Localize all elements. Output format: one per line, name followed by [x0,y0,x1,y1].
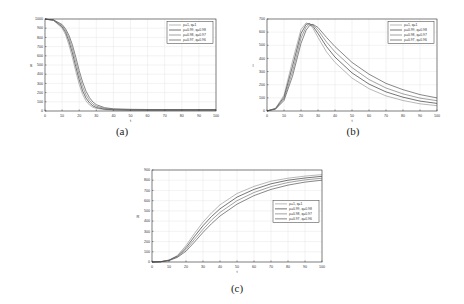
chart-panel-a: 0102030405060708090100010020030040050060… [0,0,232,145]
x-tick-label: 80 [180,114,184,118]
chart-panel-b: 0102030405060708090100010020030040050060… [232,0,464,145]
y-tick-label: 300 [37,82,43,86]
caption-b: (b) [333,125,373,137]
y-tick-label: 700 [144,189,150,193]
chart-c-plot: 0102030405060708090100010020030040050060… [116,152,348,277]
x-tick-label: 100 [434,114,440,118]
x-tick-label: 30 [316,114,320,118]
x-tick-label: 100 [319,265,325,269]
legend-entry: ρ=0.99, q=0.98 [404,28,427,32]
legend-entry: ρ=0.97, q=0.96 [289,217,312,221]
x-tick-label: 20 [184,265,188,269]
x-tick-label: 90 [418,114,422,118]
y-tick-label: 400 [37,72,43,76]
legend-entry: ρ=0.98, q=0.97 [289,212,312,216]
y-axis-label: R [137,214,140,219]
x-tick-label: 30 [201,265,205,269]
x-tick-label: 40 [218,265,222,269]
x-tick-label: 70 [269,265,273,269]
legend: ρ=1, q=1ρ=0.99, q=0.98ρ=0.98, q=0.97ρ=0.… [273,200,319,222]
legend-entry: ρ=0.98, q=0.97 [183,33,206,37]
legend-entry: ρ=1, q=1 [183,23,197,27]
x-axis-label: t [351,118,353,123]
x-tick-label: 90 [303,265,307,269]
y-tick-label: 900 [144,168,150,172]
x-tick-label: 10 [60,114,64,118]
legend-entry: ρ=1, q=1 [404,23,418,27]
y-tick-label: 300 [259,70,265,74]
x-tick-label: 20 [299,114,303,118]
y-axis-label: I [252,63,253,68]
chart-a-plot: 0102030405060708090100010020030040050060… [0,0,232,125]
y-tick-label: 200 [259,83,265,87]
x-axis-label: t [130,118,132,123]
x-tick-label: 20 [77,114,81,118]
legend-entry: ρ=0.98, q=0.97 [404,33,427,37]
y-tick-label: 800 [144,178,150,182]
x-tick-label: 70 [163,114,167,118]
y-tick-label: 0 [148,260,150,264]
x-tick-label: 90 [197,114,201,118]
x-tick-label: 10 [282,114,286,118]
y-tick-label: 100 [144,250,150,254]
x-tick-label: 0 [266,114,268,118]
legend-entry: ρ=0.97, q=0.96 [183,38,206,42]
x-tick-label: 80 [286,265,290,269]
y-tick-label: 100 [37,100,43,104]
caption-c: (c) [217,282,257,294]
x-tick-label: 100 [213,114,219,118]
x-tick-label: 40 [333,114,337,118]
x-tick-label: 10 [167,265,171,269]
y-tick-label: 600 [37,54,43,58]
x-tick-label: 70 [384,114,388,118]
legend-entry: ρ=0.99, q=0.98 [289,207,312,211]
y-tick-label: 500 [144,209,150,213]
x-tick-label: 30 [94,114,98,118]
x-tick-label: 80 [401,114,405,118]
y-tick-label: 600 [259,30,265,34]
legend: ρ=1, q=1ρ=0.99, q=0.98ρ=0.98, q=0.97ρ=0.… [388,22,434,44]
y-tick-label: 0 [263,109,265,113]
x-tick-label: 0 [44,114,46,118]
y-tick-label: 0 [41,109,43,113]
y-tick-label: 700 [37,45,43,49]
chart-b-plot: 0102030405060708090100010020030040050060… [232,0,464,125]
y-tick-label: 300 [144,230,150,234]
legend: ρ=1, q=1ρ=0.99, q=0.98ρ=0.98, q=0.97ρ=0.… [167,22,213,44]
y-tick-label: 700 [259,17,265,21]
y-tick-label: 1000 [35,17,43,21]
y-axis-label: S [30,63,33,68]
y-tick-label: 200 [37,91,43,95]
chart-panel-c: 0102030405060708090100010020030040050060… [116,152,348,282]
y-tick-label: 400 [259,57,265,61]
y-tick-label: 500 [37,63,43,67]
y-tick-label: 100 [259,96,265,100]
legend-entry: ρ=0.97, q=0.96 [404,38,427,42]
y-tick-label: 200 [144,240,150,244]
x-axis-label: t [236,269,238,274]
x-tick-label: 60 [146,114,150,118]
y-tick-label: 800 [37,36,43,40]
x-tick-label: 60 [252,265,256,269]
legend-entry: ρ=1, q=1 [289,202,303,206]
legend-entry: ρ=0.99, q=0.98 [183,28,206,32]
x-tick-label: 60 [367,114,371,118]
x-tick-label: 40 [111,114,115,118]
y-tick-label: 600 [144,199,150,203]
y-tick-label: 500 [259,43,265,47]
x-tick-label: 0 [151,265,153,269]
caption-a: (a) [102,125,142,137]
y-tick-label: 900 [37,26,43,30]
y-tick-label: 400 [144,219,150,223]
